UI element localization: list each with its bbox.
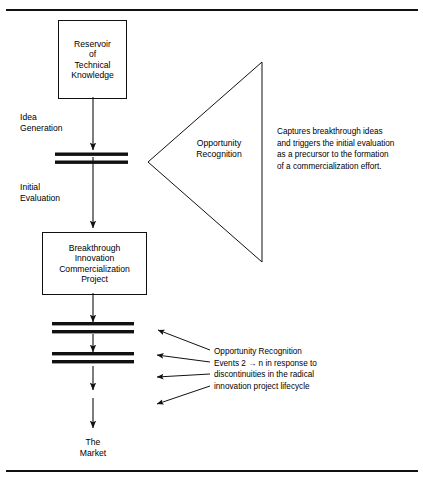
- recognition-arrow-2: [157, 355, 210, 362]
- recognition-arrow-4: [157, 386, 210, 404]
- recognition-arrow-1: [158, 330, 210, 350]
- diagram-canvas: Reservoir of Technical Knowledge Breakth…: [0, 0, 423, 483]
- gate-3: [52, 352, 134, 363]
- gate-2: [52, 322, 134, 333]
- diagram-vectors: [0, 0, 423, 483]
- gate-3-bar-bottom: [52, 360, 134, 363]
- gate-3-bar-top: [52, 352, 134, 355]
- gate-2-bar-bottom: [52, 330, 134, 333]
- recognition-arrow-3: [157, 374, 210, 377]
- gate-1-bar-top: [55, 153, 128, 156]
- recognition-event-arrows: [157, 330, 210, 404]
- opportunity-recognition-triangle: [148, 62, 262, 262]
- gate-1-bar-bottom: [55, 161, 128, 164]
- gate-1: [55, 153, 128, 164]
- gate-2-bar-top: [52, 322, 134, 325]
